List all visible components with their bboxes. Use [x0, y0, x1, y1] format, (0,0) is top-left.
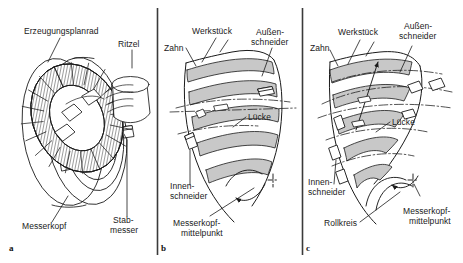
messerkopf-mittelpunkt-c: [392, 174, 418, 188]
label-rollkreis-c: Rollkreis: [324, 219, 357, 229]
label-luecke-b: Lücke: [248, 113, 271, 123]
diagram-drawing: [0, 0, 463, 263]
ritzel-pinion: [112, 77, 150, 123]
label-innenschneider-b-line2: schneider: [170, 192, 207, 202]
label-ritzel: Ritzel: [118, 40, 140, 50]
aussenschneider-blades-c: [402, 78, 445, 119]
label-luecke-c: Lücke: [392, 118, 415, 128]
panel-letter-b: b: [161, 243, 166, 253]
label-stabmesser-line2: messer: [110, 226, 138, 236]
label-werkstueck-b: Werkstück: [192, 27, 232, 37]
panel-a-drawing: [13, 38, 150, 222]
figure-container: Erzeugungsplanrad Ritzel Messerkopf Stab…: [0, 0, 463, 263]
label-aussenschneider-b-line2: schneider: [251, 38, 288, 48]
panel-letter-a: a: [9, 243, 14, 253]
label-messerkopfmittelpunkt-b-line2: mittelpunkt: [181, 229, 223, 239]
innenschneider-blade-b: [185, 133, 198, 150]
label-messerkopfmittelpunkt-c-line2: mittelpunkt: [409, 217, 451, 227]
label-erzeugungsplanrad: Erzeugungsplanrad: [24, 27, 99, 37]
label-werkstueck-c: Werkstück: [338, 28, 378, 38]
label-messerkopf: Messerkopf: [22, 222, 66, 232]
label-innenschneider-c-line2: schneider: [308, 188, 345, 198]
label-zahn-b: Zahn: [164, 44, 184, 54]
panel-letter-c: c: [306, 243, 310, 253]
label-zahn-c: Zahn: [310, 44, 330, 54]
label-aussenschneider-c-line2: schneider: [399, 32, 436, 42]
